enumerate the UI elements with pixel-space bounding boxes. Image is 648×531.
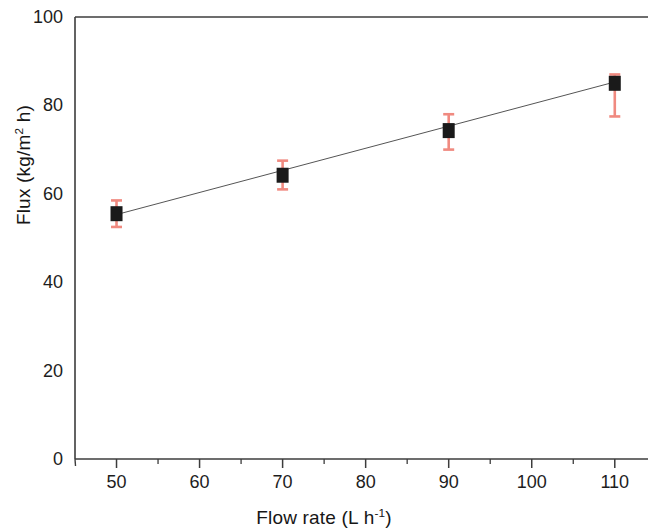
x-axis-title: Flow rate (L h-1) bbox=[0, 507, 648, 529]
y-tick-label: 60 bbox=[0, 183, 63, 204]
x-tick-label: 80 bbox=[356, 472, 376, 493]
plot-area bbox=[0, 0, 648, 531]
y-tick-label: 80 bbox=[0, 95, 63, 116]
x-tick-label: 100 bbox=[517, 472, 547, 493]
x-tick-label: 50 bbox=[107, 472, 127, 493]
y-axis-title: Flux (kg/m2 h) bbox=[13, 105, 35, 225]
x-axis-exponent: -1 bbox=[374, 506, 385, 519]
x-tick-label: 60 bbox=[190, 472, 210, 493]
chart-figure: Flow rate (L h-1) Flux (kg/m2 h) 5060708… bbox=[0, 0, 648, 531]
y-tick-label: 100 bbox=[0, 7, 63, 28]
y-tick-label: 40 bbox=[0, 272, 63, 293]
y-tick-label: 0 bbox=[0, 449, 63, 470]
x-tick-label: 90 bbox=[439, 472, 459, 493]
y-tick-label: 20 bbox=[0, 360, 63, 381]
x-tick-label: 110 bbox=[600, 472, 629, 493]
x-tick-label: 70 bbox=[273, 472, 293, 493]
y-axis-exponent: 2 bbox=[12, 128, 25, 135]
